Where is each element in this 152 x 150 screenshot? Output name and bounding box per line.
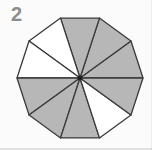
worksheet-card: 2	[0, 0, 152, 150]
center-dot	[78, 76, 83, 81]
decagon-fraction-diagram	[0, 0, 152, 150]
